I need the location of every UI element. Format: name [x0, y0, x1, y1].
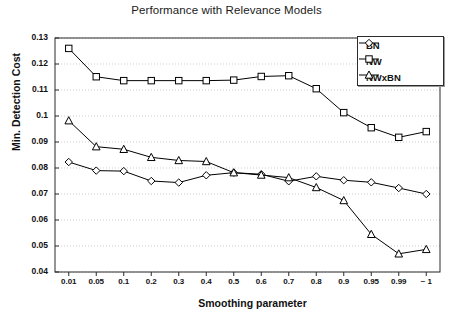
x-tick-label: ~ 1: [403, 277, 449, 286]
data-point-marker: [395, 184, 402, 191]
data-point-marker: [341, 109, 347, 115]
legend-marker-square-icon: [358, 53, 380, 65]
legend-item-nwxbn[interactable]: NWxBN: [358, 69, 443, 85]
data-point-marker: [340, 177, 347, 184]
chart-legend: BNNWNWxBN: [357, 36, 444, 86]
data-point-marker: [176, 77, 182, 83]
data-point-marker: [121, 77, 127, 83]
data-point-marker: [93, 74, 99, 80]
data-point-marker: [65, 117, 73, 124]
data-point-marker: [66, 45, 72, 51]
y-tick-label: 0.11: [18, 84, 48, 94]
data-point-marker: [340, 197, 348, 204]
data-point-marker: [286, 73, 292, 79]
data-point-marker: [203, 77, 209, 83]
data-point-marker: [368, 125, 374, 131]
data-point-marker: [148, 177, 155, 184]
data-point-marker: [65, 158, 72, 165]
y-tick-label: 0.13: [18, 32, 48, 42]
data-point-marker: [313, 86, 319, 92]
data-point-marker: [175, 179, 182, 186]
legend-item-nw[interactable]: NW: [358, 53, 443, 69]
data-point-marker: [258, 73, 264, 79]
legend-marker-diamond-icon: [358, 37, 380, 49]
data-point-marker: [120, 167, 127, 174]
data-point-marker: [422, 245, 430, 252]
chart-figure: Performance with Relevance Models Min. D…: [0, 0, 453, 320]
data-point-marker: [365, 39, 372, 46]
data-point-marker: [148, 77, 154, 83]
y-tick-label: 0.1: [18, 110, 48, 120]
series-nwxbn: [65, 117, 430, 257]
data-point-marker: [366, 56, 372, 62]
y-tick-label: 0.08: [18, 162, 48, 172]
legend-item-bn[interactable]: BN: [358, 37, 443, 53]
y-tick-label: 0.07: [18, 188, 48, 198]
y-tick-label: 0.06: [18, 214, 48, 224]
data-point-marker: [312, 184, 320, 191]
data-point-marker: [423, 190, 430, 197]
legend-marker-triangle-icon: [358, 69, 380, 81]
series-line: [69, 162, 427, 194]
y-tick-label: 0.09: [18, 136, 48, 146]
y-tick-label: 0.12: [18, 58, 48, 68]
y-tick-label: 0.05: [18, 240, 48, 250]
data-point-marker: [313, 173, 320, 180]
data-point-marker: [396, 134, 402, 140]
data-point-marker: [203, 172, 210, 179]
data-point-marker: [231, 77, 237, 83]
data-point-marker: [93, 167, 100, 174]
data-point-marker: [368, 179, 375, 186]
series-bn: [65, 158, 430, 197]
y-tick-label: 0.04: [18, 266, 48, 276]
data-point-marker: [423, 128, 429, 134]
